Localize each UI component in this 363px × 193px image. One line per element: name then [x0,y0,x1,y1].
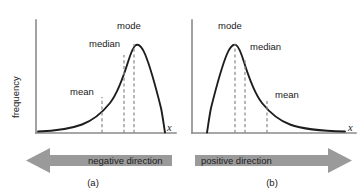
panel-b-median-label: median [250,41,281,52]
panel-a: mean median mode frequency x negative di… [10,20,176,188]
figure-canvas: mean median mode frequency x negative di… [0,0,363,193]
panel-b-mean-label: mean [275,89,299,100]
panel-a-x-axis-label: x [166,122,172,133]
panel-a-y-axis-label: frequency [10,76,21,118]
panel-a-mean-label: mean [70,86,94,97]
skewness-figure: mean median mode frequency x negative di… [0,0,363,193]
panel-a-median-label: median [89,38,120,49]
panel-a-mode-label: mode [117,20,141,31]
panel-b-caption: (b) [266,177,278,188]
panel-a-direction-label: negative direction [88,155,162,166]
panel-b-mode-label: mode [218,20,242,31]
panel-a-caption: (a) [87,177,99,188]
panel-b-direction-label: positive direction [201,155,272,166]
panel-b-x-axis-label: x [347,122,353,133]
panel-b: mode median mean x positive direction (b… [192,20,356,188]
